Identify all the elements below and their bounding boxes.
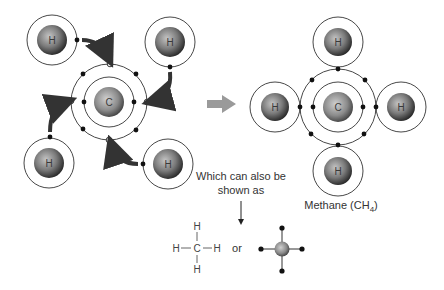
electron (168, 65, 173, 70)
hydrogen-dot (279, 268, 284, 273)
electron (82, 100, 87, 105)
electron (75, 38, 80, 43)
formula-h-left: H (172, 243, 179, 254)
formula-c: C (193, 243, 200, 254)
electron (361, 105, 366, 110)
hydrogen-atom-bottom-right: H (141, 139, 193, 189)
hydrogen-symbol: H (397, 102, 404, 113)
electron (310, 78, 315, 83)
note-line-1: Which can also be (196, 170, 286, 182)
hydrogen-atom-top-right: H (145, 17, 195, 69)
carbon-symbol: C (105, 97, 112, 108)
hydrogen-symbol: H (45, 158, 52, 169)
shared-electron (298, 105, 303, 110)
methane-caption: Methane (CH4) (304, 199, 378, 214)
transition-arrow-icon (207, 95, 236, 113)
carbon-symbol: C (334, 102, 341, 113)
curved-arrow (153, 72, 170, 101)
left-panel-separate-atoms: C H H (24, 15, 195, 189)
electron (134, 72, 139, 77)
electron-vacancy (106, 137, 112, 143)
hydrogen-dot (258, 246, 263, 251)
right-panel-methane-molecule: C H H H H Methane (CH4) (250, 17, 426, 214)
shared-electron (336, 67, 341, 72)
electron (132, 100, 137, 105)
methane-bonding-diagram: C H H (0, 0, 444, 290)
formula-h-right: H (213, 243, 220, 254)
note-line-2: shown as (218, 184, 265, 196)
formula-h-top: H (193, 221, 200, 232)
formula-h-bottom: H (193, 264, 200, 275)
hydrogen-symbol: H (48, 35, 55, 46)
curved-arrow (82, 40, 108, 57)
shared-electron (336, 143, 341, 148)
hydrogen-atom-bottom-left: H (24, 135, 74, 188)
structural-formula: H H C H H (172, 221, 220, 275)
electron (363, 78, 368, 83)
carbon-ball (275, 242, 290, 257)
electron (134, 128, 139, 133)
curved-arrow (50, 102, 66, 132)
hydrogen-dot (299, 246, 304, 251)
hydrogen-symbol: H (166, 37, 173, 48)
hydrogen-symbol: H (334, 166, 341, 177)
electron (311, 105, 316, 110)
shared-electron (374, 105, 379, 110)
hydrogen-dot (279, 225, 284, 230)
curved-arrow (112, 146, 138, 164)
electron (81, 127, 86, 132)
ball-and-stick-model (258, 225, 304, 273)
electron (81, 72, 86, 77)
hydrogen-symbol: H (164, 159, 171, 170)
or-connector: or (232, 242, 242, 254)
electron (141, 162, 146, 167)
electron (48, 135, 53, 140)
electron-vacancy (144, 99, 150, 105)
hydrogen-atom-top-left: H (27, 15, 79, 65)
electron (309, 132, 314, 137)
hydrogen-symbol: H (334, 37, 341, 48)
carbon-atom-left: C (68, 61, 150, 143)
hydrogen-symbol: H (271, 102, 278, 113)
electron-vacancy (68, 98, 74, 104)
electron (362, 132, 367, 137)
electron-vacancy (107, 61, 113, 67)
